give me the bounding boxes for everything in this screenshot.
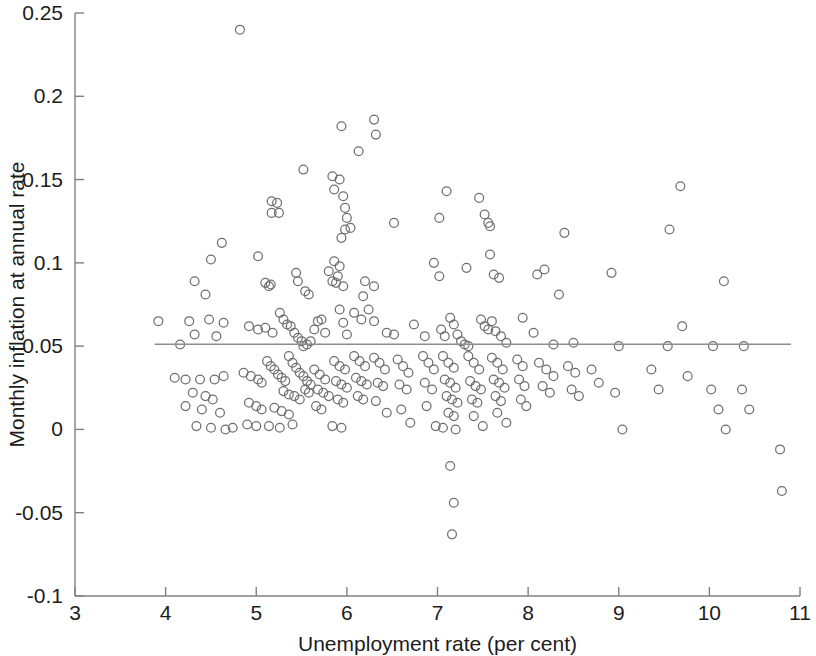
data-point xyxy=(491,392,500,401)
x-tick-label: 6 xyxy=(341,601,353,624)
data-point xyxy=(678,322,687,331)
data-point xyxy=(355,357,364,366)
data-point xyxy=(520,382,529,391)
data-point xyxy=(574,392,583,401)
data-point xyxy=(410,320,419,329)
data-point xyxy=(594,378,603,387)
data-point xyxy=(533,270,542,279)
data-point xyxy=(587,365,596,374)
axes xyxy=(75,13,800,596)
data-point xyxy=(219,372,228,381)
data-point xyxy=(181,402,190,411)
data-point xyxy=(201,290,210,299)
data-point xyxy=(205,315,214,324)
x-tick-label: 9 xyxy=(613,601,625,624)
data-point xyxy=(647,365,656,374)
data-point xyxy=(435,272,444,281)
data-point xyxy=(440,332,449,341)
data-point xyxy=(252,422,261,431)
y-axis-title: Monthly inflation at annual rate xyxy=(5,161,28,447)
data-point xyxy=(339,192,348,201)
data-point xyxy=(719,277,728,286)
data-point xyxy=(571,368,580,377)
data-point xyxy=(265,422,274,431)
data-point xyxy=(555,290,564,299)
data-point xyxy=(542,365,551,374)
data-point xyxy=(310,325,319,334)
data-point xyxy=(350,308,359,317)
data-point xyxy=(614,342,623,351)
data-point xyxy=(216,408,225,417)
data-point xyxy=(188,388,197,397)
data-point xyxy=(466,377,475,386)
y-tick-label: 0.25 xyxy=(22,1,63,24)
data-point xyxy=(428,385,437,394)
data-point xyxy=(451,425,460,434)
data-point xyxy=(359,292,368,301)
data-point xyxy=(569,338,578,347)
data-point xyxy=(429,365,438,374)
data-point xyxy=(335,175,344,184)
data-point xyxy=(707,385,716,394)
data-point xyxy=(564,362,573,371)
y-tick-label: 0.1 xyxy=(34,251,63,274)
data-point xyxy=(776,445,785,454)
data-point xyxy=(245,322,254,331)
data-point xyxy=(207,255,216,264)
data-point xyxy=(382,408,391,417)
data-point xyxy=(402,385,411,394)
data-point xyxy=(210,375,219,384)
data-point xyxy=(284,352,293,361)
data-point xyxy=(339,282,348,291)
data-point xyxy=(469,412,478,421)
data-point xyxy=(328,422,337,431)
data-point xyxy=(435,213,444,222)
data-point xyxy=(502,338,511,347)
x-tick-label: 7 xyxy=(432,601,444,624)
data-point xyxy=(370,317,379,326)
data-point xyxy=(361,277,370,286)
data-point xyxy=(529,328,538,337)
data-point xyxy=(185,317,194,326)
data-point xyxy=(449,320,458,329)
data-point xyxy=(170,373,179,382)
data-point xyxy=(478,422,487,431)
data-point xyxy=(420,332,429,341)
data-point xyxy=(337,423,346,432)
data-point xyxy=(477,315,486,324)
data-point xyxy=(330,357,339,366)
data-point xyxy=(346,223,355,232)
data-point xyxy=(518,362,527,371)
data-point xyxy=(429,258,438,267)
data-point xyxy=(420,378,429,387)
data-point xyxy=(217,238,226,247)
data-point xyxy=(535,358,544,367)
data-point xyxy=(451,383,460,392)
data-point xyxy=(709,342,718,351)
data-point xyxy=(192,422,201,431)
data-point xyxy=(522,402,531,411)
data-point xyxy=(207,423,216,432)
data-point xyxy=(545,388,554,397)
x-tick-label: 4 xyxy=(160,601,172,624)
data-point xyxy=(607,268,616,277)
data-point xyxy=(448,530,457,539)
data-point xyxy=(676,182,685,191)
data-point xyxy=(498,365,507,374)
data-point xyxy=(449,363,458,372)
data-point xyxy=(330,185,339,194)
data-point xyxy=(371,130,380,139)
y-tick-label: 0.05 xyxy=(22,334,63,357)
data-point xyxy=(321,375,330,384)
data-point xyxy=(341,203,350,212)
x-axis-title: Unemployment rate (per cent) xyxy=(298,632,577,655)
y-tick-label: -0.1 xyxy=(27,584,63,607)
data-point xyxy=(663,342,672,351)
data-point xyxy=(190,277,199,286)
data-point xyxy=(364,305,373,314)
data-point xyxy=(449,498,458,507)
data-point xyxy=(390,218,399,227)
plot-canvas: -0.1-0.0500.050.10.150.20.2534567891011 … xyxy=(0,0,816,656)
data-point xyxy=(292,268,301,277)
data-point xyxy=(611,388,620,397)
